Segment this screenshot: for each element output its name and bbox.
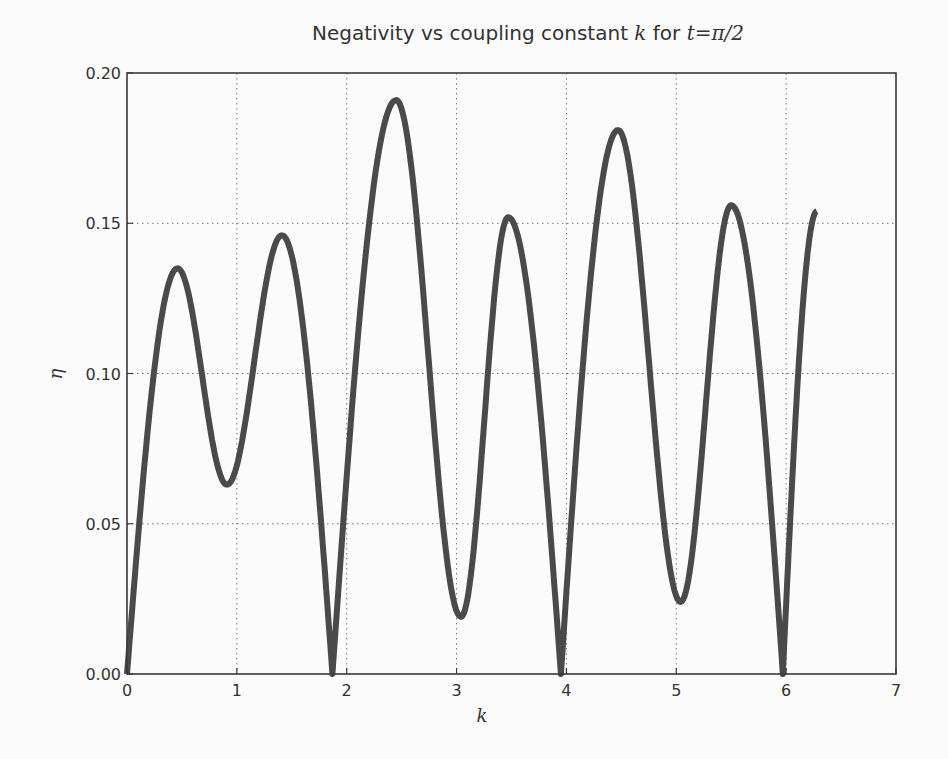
x-tick-label: 2 bbox=[342, 681, 352, 700]
y-tick-label: 0.00 bbox=[85, 665, 121, 684]
gridlines bbox=[127, 73, 896, 674]
y-axis-label: η bbox=[45, 368, 66, 379]
negativity-curve bbox=[127, 100, 817, 674]
plot-area bbox=[127, 100, 817, 674]
x-tick-label: 7 bbox=[891, 681, 901, 700]
x-tick-label: 6 bbox=[781, 681, 791, 700]
y-tick-label: 0.05 bbox=[85, 515, 121, 534]
chart: Negativity vs coupling constant k for t=… bbox=[0, 0, 948, 759]
x-tick-label: 0 bbox=[122, 681, 132, 700]
x-tick-label: 4 bbox=[561, 681, 571, 700]
y-tick-label: 0.20 bbox=[85, 64, 121, 83]
chart-title: Negativity vs coupling constant k for t=… bbox=[312, 21, 744, 45]
y-tick-label: 0.10 bbox=[85, 365, 121, 384]
x-axis-label: k bbox=[477, 705, 488, 726]
y-tick-label: 0.15 bbox=[85, 214, 121, 233]
x-tick-label: 5 bbox=[671, 681, 681, 700]
x-tick-label: 1 bbox=[232, 681, 242, 700]
x-tick-label: 3 bbox=[451, 681, 461, 700]
y-axis-ticks: 0.000.050.100.150.20 bbox=[85, 64, 133, 684]
